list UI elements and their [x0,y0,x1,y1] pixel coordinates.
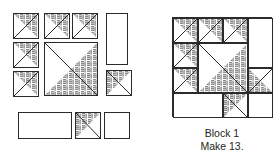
half-square-triangle-shaded-upper-left [75,112,101,139]
half-square-triangle-shaded-upper-right [13,13,39,39]
half-square-triangle-shaded-upper-left [106,70,132,96]
block-1-assembly [172,17,272,117]
half-square-triangle-shaded-upper-left [223,93,248,118]
half-square-triangle-shaded-upper-right [44,13,70,39]
hst-shading-lower-right [45,43,97,95]
hst-shading-upper-right [174,69,197,92]
half-square-triangle-shaded-upper-right [223,18,248,43]
hst-shading-upper-right [14,72,38,96]
hst-shading-upper-left [224,94,247,117]
large-half-square-triangle-shaded-lower-right [198,43,248,93]
block-caption: Block 1 Make 13. [172,127,272,152]
caption-line-1: Block 1 [172,127,272,140]
large-half-square-triangle-shaded-lower-right [44,42,98,96]
half-square-triangle-shaded-upper-right [173,68,198,93]
square-plain [104,112,130,139]
hst-shading-upper-right [174,44,197,67]
half-square-triangle-shaded-upper-right [198,18,223,43]
half-square-triangle-shaded-upper-right [72,13,98,39]
hst-shading-upper-right [45,14,69,38]
half-square-triangle-shaded-lower-left [248,68,273,93]
hst-shading-upper-right [224,19,247,42]
tall-rectangle-plain [248,18,273,68]
hst-shading-upper-right [73,14,97,38]
half-square-triangle-shaded-upper-right [13,42,39,68]
hst-shading-lower-left [249,69,272,92]
caption-line-2: Make 13. [172,140,272,153]
hst-shading-upper-right [174,19,197,42]
hst-shading-upper-left [76,113,100,138]
half-square-triangle-shaded-upper-right [173,43,198,68]
hst-shading-lower-right [199,44,247,92]
square-plain [248,93,273,118]
wide-rectangle-plain [18,112,72,139]
hst-shading-upper-right [14,14,38,38]
diagram-canvas: Block 1 Make 13. [0,0,277,166]
tall-rectangle-plain [106,13,128,65]
half-square-triangle-shaded-upper-right [173,18,198,43]
wide-rectangle-plain [173,93,223,118]
half-square-triangle-shaded-upper-right [13,71,39,97]
hst-shading-upper-right [14,43,38,67]
hst-shading-upper-left [107,71,131,95]
hst-shading-upper-right [199,19,222,42]
